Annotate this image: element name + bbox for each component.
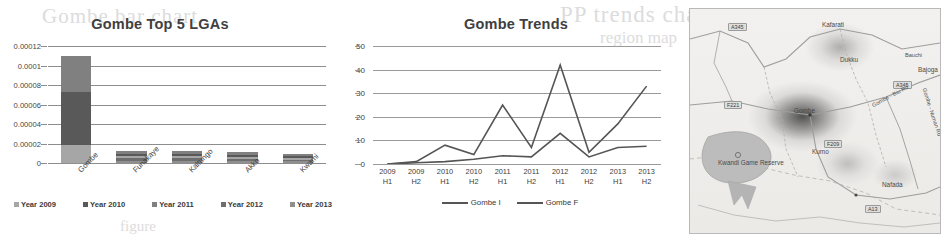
line-x-label: 2013H2: [632, 167, 661, 195]
bar-slot: [215, 46, 271, 163]
bar-y-tick-mark: [41, 163, 47, 164]
line-x-label-half: H1: [488, 177, 517, 187]
map-place-label: Bajoga: [918, 66, 938, 73]
line-y-tick-mark: [355, 93, 361, 94]
legend-swatch-icon: [290, 202, 295, 207]
bar-chart-plot-area: 00.000020.000040.000060.000080.00010.000…: [48, 46, 326, 163]
line-x-label-year: 2009: [402, 167, 431, 177]
bar-y-tick-mark: [41, 105, 47, 106]
bar-segment: [61, 92, 92, 146]
line-legend-label: Gombe F: [546, 198, 579, 207]
legend-line-icon: [442, 202, 468, 204]
line-x-label: 2009H1: [373, 167, 402, 195]
map-road-shield: A13: [865, 205, 881, 213]
line-y-tick-mark: [355, 70, 361, 71]
line-chart-series-svg: [373, 46, 661, 164]
bar-y-tick-mark: [41, 46, 47, 47]
bar-chart-category-labels: GombeFunakayeKaltungoAkkoKwami: [48, 166, 326, 202]
line-x-label-year: 2010: [459, 167, 488, 177]
bar-legend-item[interactable]: Year 2013: [290, 200, 332, 209]
bar-y-tick-mark: [41, 66, 47, 67]
line-x-label: 2011H2: [517, 167, 546, 195]
line-x-label-year: 2013: [632, 167, 661, 177]
line-series-path: [387, 65, 646, 164]
bar-chart-bars: [48, 46, 326, 163]
legend-swatch-icon: [14, 202, 19, 207]
line-x-label-half: H1: [546, 177, 575, 187]
map-road-shield: A345: [728, 23, 747, 31]
bar-y-tick-label: 0.00002: [14, 139, 41, 148]
line-y-tick-mark: [355, 46, 361, 47]
line-x-label-half: H2: [459, 177, 488, 187]
line-x-label-year: 2013: [603, 167, 632, 177]
map-place-label: Kwandi Game Reserve: [718, 159, 784, 166]
bar-x-label-slot: Gombe: [48, 166, 104, 202]
line-y-tick-label: 0: [361, 160, 365, 169]
bar-legend-item[interactable]: Year 2011: [152, 200, 194, 209]
line-x-label: 2010H1: [431, 167, 460, 195]
bar-legend-label: Year 2012: [228, 200, 263, 209]
bar-y-tick-label: 0.00012: [14, 42, 41, 51]
line-chart-legend: Gombe IGombe F: [340, 198, 680, 207]
bar-y-tick-mark: [41, 124, 47, 125]
map-road-shield: F221: [724, 101, 742, 109]
line-x-label-year: 2012: [546, 167, 575, 177]
bar-y-tick-label: 0.00006: [14, 100, 41, 109]
line-x-label: 2011H1: [488, 167, 517, 195]
line-x-label-year: 2010: [431, 167, 460, 177]
line-x-label: 2009H2: [402, 167, 431, 195]
bar-y-tick-label: 0.00008: [14, 81, 41, 90]
map-panel: KafaratiDukkuBajogaGombeKumoNafadaKwandi…: [680, 0, 950, 240]
bar-slot: [270, 46, 326, 163]
bar-legend-item[interactable]: Year 2010: [83, 200, 125, 209]
map-place-label: Gombe: [794, 107, 815, 114]
line-chart-title: Gombe Trends: [346, 16, 686, 32]
line-x-label-half: H1: [603, 177, 632, 187]
bar-segment: [61, 56, 92, 92]
line-x-label: 2010H2: [459, 167, 488, 195]
bar-legend-label: Year 2013: [297, 200, 332, 209]
line-x-label: 2013H1: [603, 167, 632, 195]
legend-line-icon: [517, 202, 543, 204]
line-chart-panel: Gombe Trends 01020304050 2009H12009H2201…: [340, 0, 680, 240]
bar-x-label-slot: Akko: [215, 166, 271, 202]
line-x-label-year: 2011: [517, 167, 546, 177]
bar-chart-legend: Year 2009Year 2010Year 2011Year 2012Year…: [14, 200, 332, 209]
bar-chart-panel: Gombe Top 5 LGAs 00.000020.000040.000060…: [0, 0, 340, 240]
line-legend-item[interactable]: Gombe F: [517, 198, 579, 207]
bar-x-label-slot: Funakaye: [104, 166, 160, 202]
line-x-label-half: H1: [431, 177, 460, 187]
line-legend-item[interactable]: Gombe I: [442, 198, 501, 207]
line-series-path: [387, 133, 646, 164]
line-x-label-year: 2011: [488, 167, 517, 177]
map-place-label: Dukku: [840, 56, 858, 63]
bar-slot: [159, 46, 215, 163]
bar-legend-label: Year 2009: [21, 200, 56, 209]
line-x-label-half: H2: [575, 177, 604, 187]
map-image: KafaratiDukkuBajogaGombeKumoNafadaKwandi…: [689, 8, 941, 234]
bar-y-tick-mark: [41, 85, 47, 86]
legend-swatch-icon: [221, 202, 226, 207]
line-x-label-half: H2: [632, 177, 661, 187]
stacked-bar[interactable]: [61, 56, 92, 163]
bar-legend-item[interactable]: Year 2009: [14, 200, 56, 209]
legend-swatch-icon: [83, 202, 88, 207]
bar-x-label-slot: Kwami: [270, 166, 326, 202]
line-chart-axis-labels: 2009H12009H22010H12010H22011H12011H22012…: [373, 167, 661, 195]
line-x-label: 2012H1: [546, 167, 575, 195]
line-gridline: [373, 164, 661, 165]
bar-slot: [104, 46, 160, 163]
map-place-label: Kumo: [812, 148, 829, 155]
legend-swatch-icon: [152, 202, 157, 207]
line-y-tick-mark: [355, 164, 361, 165]
bar-x-label-slot: Kaltungo: [159, 166, 215, 202]
line-x-label-year: 2009: [373, 167, 402, 177]
map-road-label: Bauchi: [905, 52, 922, 58]
bar-legend-label: Year 2011: [159, 200, 194, 209]
map-place-label: Kafarati: [822, 21, 844, 28]
line-legend-label: Gombe I: [471, 198, 501, 207]
bar-legend-item[interactable]: Year 2012: [221, 200, 263, 209]
line-x-label-half: H2: [517, 177, 546, 187]
map-roads-svg: [690, 9, 940, 233]
line-x-label-half: H2: [402, 177, 431, 187]
